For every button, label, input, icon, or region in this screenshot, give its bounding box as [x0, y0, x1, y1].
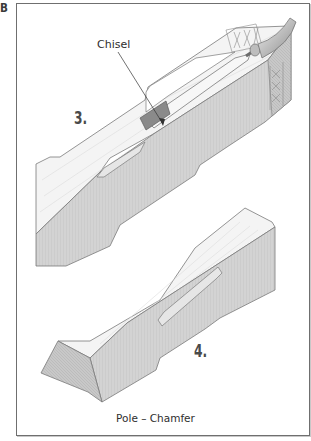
chamfer-illustration [0, 0, 311, 441]
figure-caption: Pole – Chamfer [0, 412, 311, 424]
step-3-number: 3. [74, 108, 87, 128]
chisel-callout-label: Chisel [97, 38, 130, 51]
step-4-number: 4. [194, 341, 207, 361]
pole-4-side-face [90, 227, 275, 402]
